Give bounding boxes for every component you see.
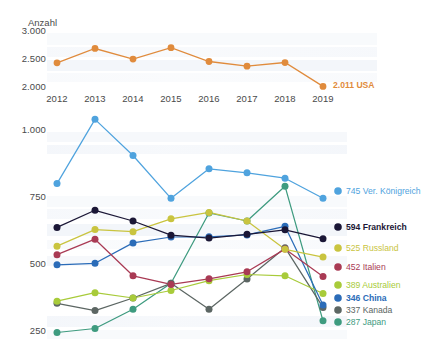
- data-point: [206, 306, 213, 313]
- x-axis-tick-label: 2015: [158, 93, 184, 104]
- data-point: [130, 272, 137, 279]
- data-point: [168, 232, 175, 239]
- data-point: [244, 268, 251, 275]
- x-axis-tick-label: 2019: [310, 93, 336, 104]
- data-point: [54, 59, 61, 66]
- legend-dot: [334, 244, 342, 252]
- data-point: [282, 226, 289, 233]
- data-point: [168, 44, 175, 51]
- data-point: [320, 317, 327, 324]
- data-point: [130, 228, 137, 235]
- legend-dot: [334, 306, 342, 314]
- data-point: [130, 152, 137, 159]
- x-axis-tick-label: 2017: [234, 93, 260, 104]
- legend-dot: [334, 187, 342, 195]
- data-point: [54, 261, 61, 268]
- data-point: [244, 169, 251, 176]
- legend-dot: [334, 318, 342, 326]
- data-point: [282, 175, 289, 182]
- data-point: [130, 217, 137, 224]
- data-point: [320, 235, 327, 242]
- data-point: [244, 63, 251, 70]
- data-point: [92, 45, 99, 52]
- data-point: [320, 83, 327, 90]
- series-end-label-ver--k-nigreich: 745 Ver. Königreich: [346, 186, 421, 196]
- data-point: [54, 243, 61, 250]
- data-point: [282, 272, 289, 279]
- data-point: [320, 195, 327, 202]
- x-axis-tick-label: 2018: [272, 93, 298, 104]
- data-point: [168, 287, 175, 294]
- x-axis-tick-label: 2014: [120, 93, 146, 104]
- data-point: [320, 254, 327, 261]
- data-point: [54, 251, 61, 258]
- data-point: [92, 260, 99, 267]
- series-end-label-frankreich: 594 Frankreich: [346, 222, 407, 232]
- series-end-label-russland: 525 Russland: [346, 243, 399, 253]
- data-point: [54, 329, 61, 336]
- data-point: [244, 231, 251, 238]
- series-line-kanada: [57, 248, 323, 311]
- data-point: [54, 180, 61, 187]
- series-end-label-japan: 287 Japan: [346, 317, 386, 327]
- data-point: [206, 235, 213, 242]
- data-point: [206, 58, 213, 65]
- legend-dot: [334, 263, 342, 271]
- data-point: [168, 215, 175, 222]
- legend-dot: [334, 294, 342, 302]
- data-point: [206, 275, 213, 282]
- data-point: [206, 209, 213, 216]
- data-point: [168, 195, 175, 202]
- series-end-label-australien: 389 Australien: [346, 280, 400, 290]
- data-point: [92, 236, 99, 243]
- data-point: [206, 165, 213, 172]
- series-line-usa: [57, 48, 323, 87]
- data-point: [130, 239, 137, 246]
- data-point: [92, 307, 99, 314]
- data-point: [320, 273, 327, 280]
- data-point: [92, 116, 99, 123]
- x-axis-tick-label: 2012: [44, 93, 70, 104]
- data-point: [92, 226, 99, 233]
- legend-dot: [334, 223, 342, 231]
- data-point: [168, 281, 175, 288]
- x-axis-tick-label: 2013: [82, 93, 108, 104]
- series-end-label-italien: 452 Italien: [346, 262, 386, 272]
- data-point: [244, 217, 251, 224]
- x-axis-tick-label: 2016: [196, 93, 222, 104]
- data-point: [54, 298, 61, 305]
- legend-dot: [334, 281, 342, 289]
- data-point: [282, 246, 289, 253]
- data-point: [130, 306, 137, 313]
- chart-canvas: 2.0002.5003.000Anzahl2.011 USA2012201320…: [0, 0, 447, 347]
- data-point: [92, 325, 99, 332]
- series-end-label-kanada: 337 Kanada: [346, 305, 392, 315]
- data-point: [282, 183, 289, 190]
- series-end-label-china: 346 China: [346, 293, 387, 303]
- data-point: [320, 290, 327, 297]
- data-point: [92, 289, 99, 296]
- data-point: [130, 56, 137, 63]
- data-point: [130, 295, 137, 302]
- data-point: [282, 59, 289, 66]
- data-point: [320, 301, 327, 308]
- data-point: [92, 207, 99, 214]
- data-point: [54, 224, 61, 231]
